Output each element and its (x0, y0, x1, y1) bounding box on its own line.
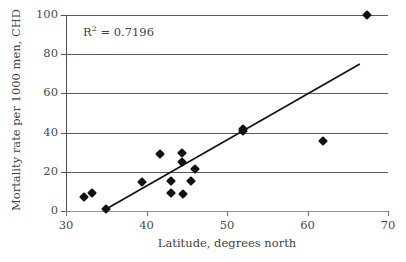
x-tick-30 (66, 211, 67, 216)
x-tick-60 (308, 211, 309, 216)
x-tick-40 (147, 211, 148, 216)
x-tick-label-50: 50 (220, 220, 235, 232)
x-tick-label-70: 70 (381, 220, 396, 232)
x-tick-label-30: 30 (59, 220, 74, 232)
y-tick-label-20: 20 (43, 166, 58, 178)
x-tick-50 (227, 211, 228, 216)
scatter-plot-figure: R2 = 0.7196 Mortality rate per 1000 men,… (0, 0, 406, 262)
x-axis-title: Latitude, degrees north (66, 236, 388, 250)
x-tick-label-60: 60 (300, 220, 315, 232)
y-tick-label-80: 80 (43, 48, 58, 60)
r-squared-annotation: R2 = 0.7196 (83, 24, 154, 39)
y-tick-label-60: 60 (43, 87, 58, 99)
y-tick-label-100: 100 (36, 9, 58, 21)
y-axis-title: Mortality rate per 1000 men, CHD (8, 15, 24, 211)
y-tick-label-40: 40 (43, 127, 58, 139)
r-squared-symbol: R (83, 25, 92, 39)
x-tick-70 (388, 211, 389, 216)
trendline (66, 15, 388, 211)
plot-area (66, 15, 388, 211)
r-squared-value: = 0.7196 (97, 25, 154, 39)
y-tick-label-0: 0 (51, 205, 58, 217)
x-tick-label-40: 40 (139, 220, 154, 232)
